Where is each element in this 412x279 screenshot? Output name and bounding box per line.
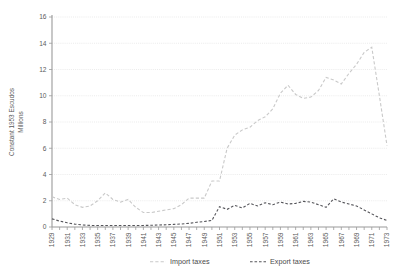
x-tick-label: 1963	[307, 232, 314, 247]
x-tick-label: 1953	[231, 232, 238, 247]
x-tick-label: 1961	[292, 232, 299, 247]
x-tick-label: 1969	[353, 232, 360, 247]
x-tick-label: 1943	[155, 232, 162, 247]
y-tick-label: 2	[43, 197, 47, 204]
x-tick-label: 1947	[185, 232, 192, 247]
x-tick-label: 1957	[262, 232, 269, 247]
x-tick-label: 1933	[79, 232, 86, 247]
x-tick-label: 1967	[338, 232, 345, 247]
y-tick-label: 10	[39, 92, 47, 99]
y-tick-label: 8	[43, 118, 47, 125]
x-tick-label: 1971	[368, 232, 375, 247]
x-tick-label: 1959	[277, 232, 284, 247]
x-tick-label: 1955	[246, 232, 253, 247]
x-tick-label: 1945	[170, 232, 177, 247]
y-tick-label: 12	[39, 66, 47, 73]
y-tick-label: 14	[39, 40, 47, 47]
y-tick-label: 4	[43, 171, 47, 178]
y-axis-title-line: Millions	[17, 111, 24, 132]
x-tick-label: 1939	[125, 232, 132, 247]
legend-label-export-taxes: Export taxes	[270, 257, 310, 266]
x-tick-label: 1935	[94, 232, 101, 247]
x-tick-label: 1941	[140, 232, 147, 247]
x-tick-label: 1931	[64, 232, 71, 247]
line-chart: 0246810121416 19291931193319351937193919…	[0, 0, 412, 279]
x-tick-label: 1973	[383, 232, 390, 247]
x-tick-label: 1965	[322, 232, 329, 247]
y-tick-label: 0	[43, 223, 47, 230]
x-tick-label: 1929	[48, 232, 55, 247]
x-tick-label: 1951	[216, 232, 223, 247]
y-tick-label: 16	[39, 13, 47, 20]
x-tick-label: 1937	[109, 232, 116, 247]
x-tick-label: 1949	[201, 232, 208, 247]
y-axis-title-line: Constant 1953 Escudos	[8, 88, 15, 156]
chart-container: 0246810121416 19291931193319351937193919…	[0, 0, 412, 279]
legend-label-import-taxes: Import taxes	[170, 257, 210, 266]
y-tick-label: 6	[43, 145, 47, 152]
